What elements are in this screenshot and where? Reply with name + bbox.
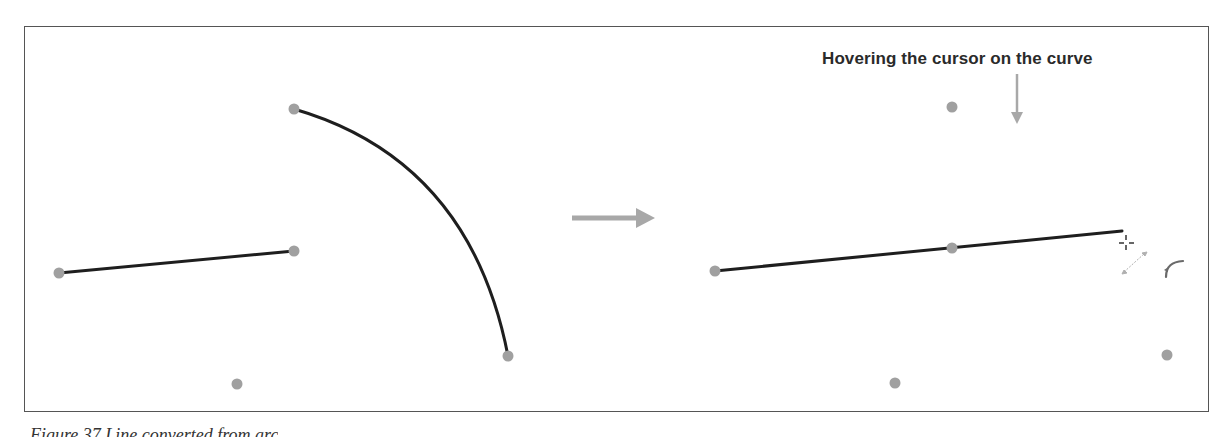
endpoint[interactable] — [289, 246, 300, 257]
sketch-line[interactable] — [59, 251, 294, 273]
crosshair-cursor-icon — [1119, 235, 1134, 250]
endpoint[interactable] — [710, 266, 721, 277]
endpoint[interactable] — [289, 104, 300, 115]
after-sketch — [710, 102, 1173, 389]
sketch-arc[interactable] — [294, 109, 508, 356]
hover-annotation: Hovering the cursor on the curve — [822, 49, 1093, 69]
endpoint[interactable] — [503, 351, 514, 362]
point[interactable] — [1162, 350, 1173, 361]
right-arrow-icon — [572, 208, 655, 228]
before-sketch — [54, 104, 514, 390]
figure-caption: Figure 37 Line converted from arc — [30, 424, 278, 437]
endpoint[interactable] — [54, 268, 65, 279]
point[interactable] — [947, 102, 958, 113]
down-arrow-icon — [1011, 74, 1023, 124]
center-point[interactable] — [232, 379, 243, 390]
diagonal-resize-icon — [1122, 252, 1147, 274]
curve-tool-icon — [1164, 261, 1183, 277]
midpoint[interactable] — [947, 243, 958, 254]
point[interactable] — [890, 378, 901, 389]
sketch-line[interactable] — [715, 231, 1122, 271]
